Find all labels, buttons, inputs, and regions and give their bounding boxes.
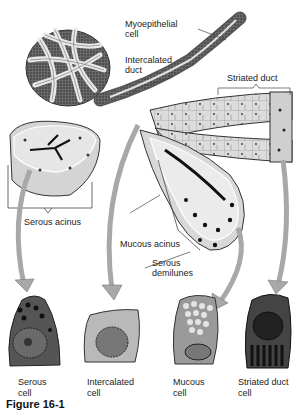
label-myoepithelial-cell: Myoepithelial cell [125,19,178,39]
striated-duct-cell-art [245,294,291,368]
label-mucous-acinus: Mucous acinus [120,239,180,249]
label-intercalated-duct: Intercalated duct [125,55,172,75]
label-serous-demilunes: Serous demilunes [152,258,193,278]
figure-caption: Figure 16-1 [6,398,65,410]
caption-intercalated-cell: Intercalated cell [87,377,134,399]
serous-cell-art [9,296,60,366]
mucous-cell-art [173,295,218,364]
arrowheads [15,279,288,310]
label-serous-acinus: Serous acinus [24,217,81,227]
label-striated-duct: Striated duct [227,73,278,83]
caption-mucous-cell: Mucous cell [173,377,205,399]
intercalated-cell-art [84,310,139,362]
caption-striated-duct-cell: Striated duct cell [238,377,289,399]
caption-serous-cell: Serous cell [18,377,47,399]
